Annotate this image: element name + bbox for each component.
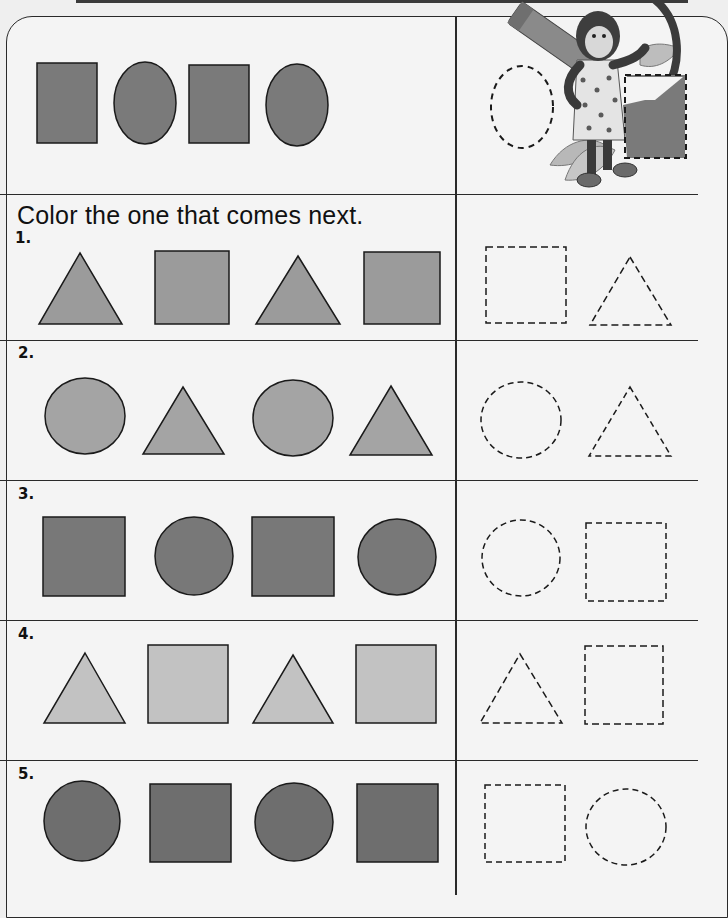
circle-shape	[253, 380, 333, 456]
square-shape	[155, 251, 229, 324]
circle-shape	[255, 783, 333, 861]
circle-shape	[44, 781, 120, 861]
square-shape	[252, 517, 334, 596]
dashed-square-choice[interactable]	[585, 646, 663, 724]
square-shape	[364, 252, 440, 324]
dashed-square-choice[interactable]	[485, 785, 565, 862]
dashed-square-choice[interactable]	[586, 523, 666, 601]
circle-shape	[114, 62, 176, 144]
circle-shape	[266, 64, 328, 146]
square-shape	[150, 784, 231, 862]
triangle-shape	[44, 653, 125, 723]
circle-shape	[358, 519, 436, 595]
triangle-shape	[253, 655, 333, 723]
square-shape	[189, 65, 249, 143]
dashed-triangle-choice[interactable]	[480, 654, 562, 723]
square-shape	[37, 63, 97, 143]
square-shape	[43, 517, 125, 596]
square-shape	[356, 645, 436, 723]
dashed-circle-choice[interactable]	[586, 789, 666, 865]
square-shape	[357, 784, 438, 862]
square-shape	[148, 645, 228, 723]
circle-shape	[155, 517, 233, 595]
dashed-triangle-choice[interactable]	[589, 387, 671, 456]
triangle-shape	[39, 253, 122, 324]
monkey-illustration	[505, 0, 698, 195]
dashed-circle-choice[interactable]	[481, 382, 561, 458]
circle-shape	[45, 378, 125, 454]
dashed-triangle-choice[interactable]	[590, 257, 671, 325]
triangle-shape	[350, 386, 432, 455]
monkey-head	[576, 11, 620, 61]
triangle-shape	[256, 256, 340, 324]
dashed-square-choice[interactable]	[486, 247, 566, 323]
example-pattern	[37, 62, 328, 146]
dashed-circle-choice[interactable]	[482, 520, 560, 596]
triangle-shape	[143, 387, 224, 454]
